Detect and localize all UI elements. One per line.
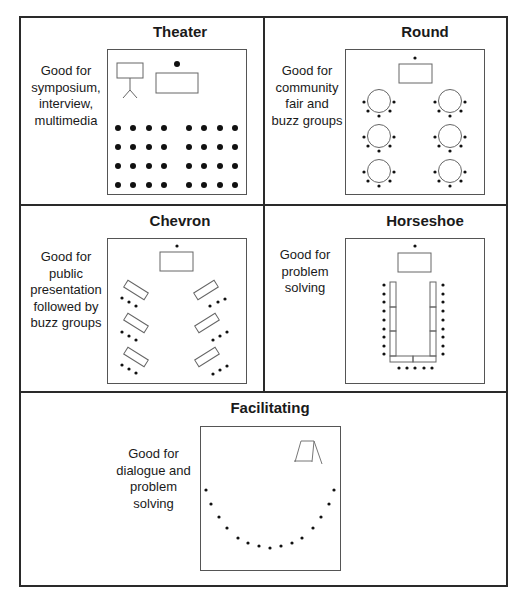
horizontal-divider-2 [19, 391, 508, 393]
presenter-dot [413, 56, 416, 59]
panel-description: Good for community fair and buzz groups [270, 63, 344, 129]
presenter-dot [175, 244, 178, 247]
easel-icon [294, 441, 322, 464]
panel-title: Horseshoe [375, 212, 475, 229]
chevron-seats [120, 296, 228, 375]
presenter-table [398, 253, 431, 272]
facilitating-diagram [200, 426, 341, 571]
panel-description: Good for dialogue and problem solving [110, 446, 197, 512]
panel-description: Good for public presentation followed by… [28, 249, 104, 332]
panel-title: Round [385, 23, 465, 40]
panel-title: Chevron [140, 212, 220, 229]
panel-description: Good for problem solving [272, 247, 338, 297]
chevron-diagram [107, 238, 247, 385]
semicircle-seats [204, 488, 335, 549]
table-seats [362, 100, 466, 187]
presenter-table [160, 252, 193, 271]
horizontal-divider-1 [19, 204, 508, 206]
panel-title: Facilitating [220, 399, 320, 416]
u-shaped-tables [390, 282, 436, 362]
presenter-dot [174, 61, 180, 67]
theater-diagram [107, 49, 247, 196]
round-tables [368, 90, 462, 183]
panel-title: Theater [140, 23, 220, 40]
audience-seats [115, 125, 238, 188]
flipchart-icon [117, 63, 143, 98]
presenter-dot [413, 244, 416, 247]
presenter-table [156, 73, 198, 93]
horseshoe-diagram [345, 238, 485, 385]
presenter-table [399, 64, 432, 83]
round-diagram [345, 49, 485, 195]
angled-tables [124, 280, 220, 367]
panel-description: Good for symposium, interview, multimedi… [30, 63, 102, 129]
